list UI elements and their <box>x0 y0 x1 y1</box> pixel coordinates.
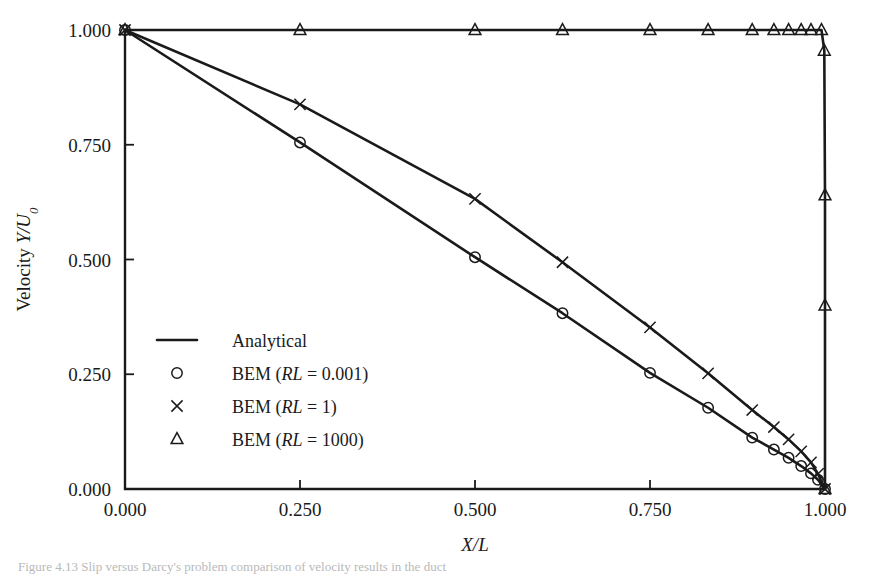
chart-legend: AnalyticalBEM (RL = 0.001)BEM (RL = 1)BE… <box>157 331 368 451</box>
legend-label: BEM (RL = 0.001) <box>232 364 368 385</box>
x-tick-label: 0.500 <box>454 499 497 520</box>
legend-swatch-triangle <box>171 433 183 444</box>
axis-tick-labels: 0.0000.2500.5000.7501.0000.0000.2500.500… <box>68 20 846 520</box>
y-tick-label: 1.000 <box>68 20 111 41</box>
data-point <box>805 457 816 468</box>
velocity-profile-chart: 0.0000.2500.5000.7501.0000.0000.2500.500… <box>0 0 880 575</box>
data-point <box>747 404 758 415</box>
y-tick-label: 0.500 <box>68 250 111 271</box>
y-axis-title-text: Velocity Y/U0 <box>13 207 41 312</box>
x-tick-label: 0.750 <box>629 499 672 520</box>
data-point <box>796 446 807 457</box>
x-tick-label: 1.000 <box>804 499 847 520</box>
data-point <box>768 421 779 432</box>
legend-swatch-cross <box>171 400 182 411</box>
legend-label: BEM (RL = 1000) <box>232 430 364 451</box>
figure-container: 0.0000.2500.5000.7501.0000.0000.2500.500… <box>0 0 880 575</box>
legend-label: Analytical <box>232 331 307 351</box>
x-tick-label: 0.000 <box>104 499 147 520</box>
y-tick-label: 0.000 <box>68 479 111 500</box>
legend-label: BEM (RL = 1) <box>232 397 337 418</box>
data-point <box>469 193 480 204</box>
x-tick-label: 0.250 <box>279 499 322 520</box>
figure-caption: Figure 4.13 Slip versus Darcy's problem … <box>18 559 862 575</box>
data-point <box>783 434 794 445</box>
data-point <box>703 368 714 379</box>
x-axis-title: X/L <box>460 534 488 555</box>
series-circle <box>120 25 830 494</box>
legend-swatch-circle <box>172 368 182 378</box>
data-point <box>294 99 305 110</box>
y-axis-title: Velocity Y/U0 <box>13 207 41 312</box>
data-point <box>644 322 655 333</box>
y-tick-label: 0.250 <box>68 364 111 385</box>
y-tick-label: 0.750 <box>68 135 111 156</box>
series-line <box>125 30 825 489</box>
data-point <box>812 468 823 479</box>
data-point <box>557 257 568 268</box>
